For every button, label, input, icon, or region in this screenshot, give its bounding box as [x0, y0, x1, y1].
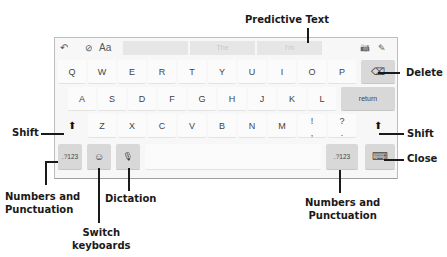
key-bottom-char: , — [298, 126, 326, 138]
shift-right-label: Shift — [407, 127, 434, 140]
dictation-button[interactable]: 🎙 — [116, 144, 140, 170]
return-button[interactable]: return — [341, 87, 395, 111]
key-z[interactable]: Z — [88, 114, 116, 138]
key-f[interactable]: F — [158, 87, 186, 111]
numbers-left-leader-h — [45, 161, 58, 163]
key-r[interactable]: R — [148, 60, 176, 84]
key-o[interactable]: O — [298, 60, 326, 84]
key-bottom-char: . — [328, 126, 356, 138]
switch-keyboards-label-line2: keyboards — [72, 239, 131, 252]
key-p[interactable]: P — [328, 60, 356, 84]
microphone-icon: 🎙 — [123, 152, 133, 161]
key-a[interactable]: A — [68, 87, 96, 111]
predictive-text-label: Predictive Text — [245, 13, 329, 26]
key-w[interactable]: W — [88, 60, 116, 84]
ipad-keyboard: ↶ ⊘ Aa The I'm 📷 ✎ Q W E R T Y U I O P ⌫… — [54, 37, 398, 179]
numbers-left-label-line2: Punctuation — [5, 203, 80, 216]
close-label: Close — [407, 152, 437, 165]
key-s[interactable]: S — [98, 87, 126, 111]
camera-icon[interactable]: 📷 — [360, 41, 370, 55]
prediction-slot-3[interactable]: I'm — [257, 41, 322, 55]
shift-right-leader — [379, 133, 404, 135]
key-b[interactable]: B — [208, 114, 236, 138]
dictation-label: Dictation — [105, 192, 156, 205]
key-top-char: ? — [328, 114, 356, 126]
key-u[interactable]: U — [238, 60, 266, 84]
numbers-left-label-line1: Numbers and — [5, 190, 80, 203]
switch-keyboard-button[interactable]: ☺ — [87, 144, 111, 170]
key-c[interactable]: C — [148, 114, 176, 138]
key-e[interactable]: E — [118, 60, 146, 84]
predictive-text-leader — [307, 28, 309, 43]
key-d[interactable]: D — [128, 87, 156, 111]
hide-keyboard-button[interactable]: ⌨ — [365, 144, 395, 170]
space-bar[interactable] — [145, 144, 321, 170]
delete-leader — [378, 72, 400, 74]
shift-icon: ⬆ — [68, 120, 76, 131]
shift-left-label: Shift — [12, 126, 39, 139]
switch-keyboards-label-line1: Switch — [72, 226, 131, 239]
text-format-button[interactable]: Aa — [99, 41, 111, 55]
shift-left-leader — [41, 133, 64, 135]
numbers-right-label-line1: Numbers and — [305, 196, 380, 209]
key-t[interactable]: T — [178, 60, 206, 84]
numbers-right-label-line2: Punctuation — [305, 209, 380, 222]
prediction-slot-1[interactable] — [123, 41, 188, 55]
key-i[interactable]: I — [268, 60, 296, 84]
key-n[interactable]: N — [238, 114, 266, 138]
key-exclaim-comma[interactable]: ! , — [298, 114, 326, 138]
numbers-right-label: Numbers and Punctuation — [305, 196, 380, 222]
key-k[interactable]: K — [278, 87, 306, 111]
key-q[interactable]: Q — [58, 60, 86, 84]
close-leader — [384, 159, 404, 161]
shift-icon: ⬆ — [374, 120, 382, 131]
emoji-icon: ☺ — [94, 151, 104, 162]
switch-keyboards-leader — [98, 168, 100, 223]
key-m[interactable]: M — [268, 114, 296, 138]
key-h[interactable]: H — [218, 87, 246, 111]
switch-keyboards-label: Switch keyboards — [72, 226, 131, 252]
numbers-left-label: Numbers and Punctuation — [5, 190, 80, 216]
scribble-icon[interactable]: ✎ — [378, 41, 386, 55]
prediction-slot-2[interactable]: The — [190, 41, 255, 55]
undo-icon[interactable]: ↶ — [60, 41, 68, 55]
key-top-char: ! — [298, 114, 326, 126]
key-v[interactable]: V — [178, 114, 206, 138]
delete-label: Delete — [406, 66, 443, 79]
shortcut-bar: ↶ ⊘ Aa The I'm 📷 ✎ — [55, 38, 397, 58]
dictation-leader — [128, 168, 130, 191]
check-circle-icon[interactable]: ⊘ — [85, 41, 93, 55]
numbers-right-button[interactable]: .?123 — [326, 144, 358, 170]
key-j[interactable]: J — [248, 87, 276, 111]
key-y[interactable]: Y — [208, 60, 236, 84]
key-g[interactable]: G — [188, 87, 216, 111]
key-question-period[interactable]: ? . — [328, 114, 356, 138]
key-x[interactable]: X — [118, 114, 146, 138]
key-l[interactable]: L — [308, 87, 336, 111]
numbers-left-leader-v — [45, 161, 47, 185]
numbers-left-button[interactable]: .?123 — [58, 144, 82, 170]
numbers-right-leader — [339, 170, 341, 193]
